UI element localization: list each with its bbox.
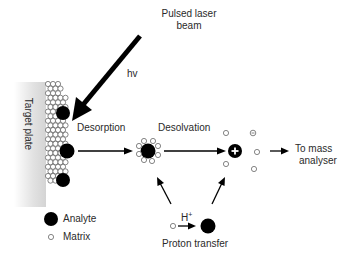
ionized-analyte (228, 144, 242, 158)
desolvation-arrow (164, 148, 226, 155)
hv-label: hv (127, 68, 138, 80)
laser-beam-label: Pulsed laser beam (146, 8, 232, 32)
desorption-arrow (78, 148, 133, 155)
target-plate-label: Target plate (22, 84, 34, 164)
legend-symbols (44, 212, 58, 240)
proton-transfer-arrows (157, 177, 225, 204)
h-plus-label: H+ (181, 209, 192, 224)
matrix-crystal-layer (45, 81, 68, 183)
to-analyser-arrow (270, 148, 289, 155)
legend-analyte-label: Analyte (63, 213, 96, 225)
laser-label-line1: Pulsed laser (146, 8, 232, 20)
maldi-diagram: Pulsed laser beam hv Target plate Desorp… (0, 0, 346, 256)
analyte-matrix-cluster (136, 138, 160, 163)
legend-matrix-label: Matrix (63, 231, 90, 243)
to-mass-line2: analyser (295, 155, 337, 167)
negative-ion (250, 130, 256, 136)
to-mass-analyser-label: To mass analyser (295, 143, 337, 167)
to-mass-line1: To mass (295, 143, 337, 155)
proton-transfer-detail (170, 219, 215, 234)
desolvation-label: Desolvation (158, 122, 210, 134)
laser-label-line2: beam (146, 20, 232, 32)
proton-transfer-label: Proton transfer (162, 238, 228, 250)
plus-superscript: + (188, 211, 192, 218)
desorption-label: Desorption (77, 122, 125, 134)
